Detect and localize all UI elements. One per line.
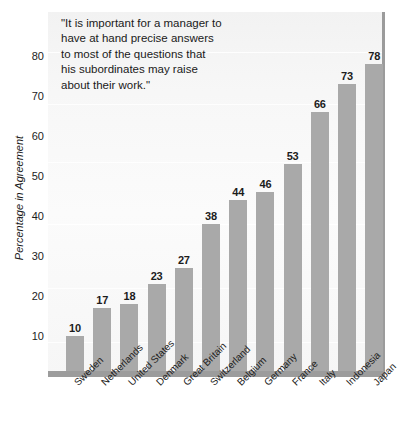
bar-value-label: 73 xyxy=(327,70,367,82)
quote-line: to most of the questions that xyxy=(61,47,261,62)
x-axis: SwedenNetherlandsUnited StatesDenmarkGre… xyxy=(48,378,403,442)
bar-chart: 101718232738444653667378 102030405060708… xyxy=(0,0,403,442)
bar-value-label: 38 xyxy=(191,210,231,222)
bar xyxy=(365,64,383,376)
bar xyxy=(311,112,329,376)
bar-value-label: 78 xyxy=(354,50,394,62)
bar xyxy=(284,164,302,376)
bar-value-label: 53 xyxy=(273,150,313,162)
bar-value-label: 10 xyxy=(55,322,95,334)
y-axis-tick-label: 80 xyxy=(2,50,44,62)
quote-annotation: "It is important for a manager tohave at… xyxy=(61,16,261,93)
quote-line: his subordinates may raise xyxy=(61,62,261,77)
bar-value-label: 18 xyxy=(109,290,149,302)
bar-value-label: 66 xyxy=(300,98,340,110)
y-axis-tick-label: 20 xyxy=(2,290,44,302)
bar-value-label: 46 xyxy=(245,178,285,190)
bar-value-label: 23 xyxy=(137,270,177,282)
quote-line: about their work." xyxy=(61,78,261,93)
bar xyxy=(256,192,274,376)
bar xyxy=(338,84,356,376)
quote-line: have at hand precise answers xyxy=(61,31,261,46)
y-axis-tick-label: 70 xyxy=(2,90,44,102)
bar-value-label: 27 xyxy=(164,254,204,266)
y-axis-title: Percentage in Agreement xyxy=(13,118,25,278)
quote-line: "It is important for a manager to xyxy=(61,16,261,31)
y-axis-tick-label: 10 xyxy=(2,330,44,342)
